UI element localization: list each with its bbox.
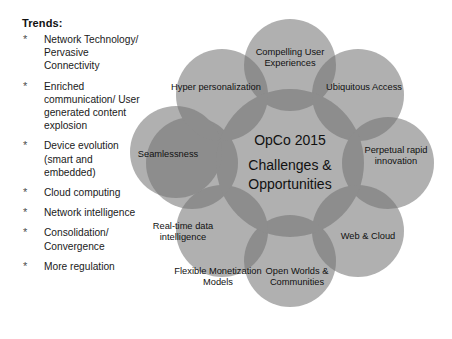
bullet-icon: * <box>23 260 27 273</box>
flower-diagram: Compelling User ExperiencesUbiquitous Ac… <box>120 0 452 339</box>
bullet-icon: * <box>23 139 27 152</box>
bullet-icon: * <box>23 206 27 219</box>
bullet-icon: * <box>23 226 27 239</box>
bullet-icon: * <box>23 186 27 199</box>
trends-heading: Trends: <box>22 17 62 29</box>
flower-diagram-svg <box>120 0 452 339</box>
bullet-icon: * <box>23 33 27 46</box>
trends-panel: Trends: * Network Technology/ Pervasive … <box>0 0 140 339</box>
bullet-icon: * <box>23 80 27 93</box>
